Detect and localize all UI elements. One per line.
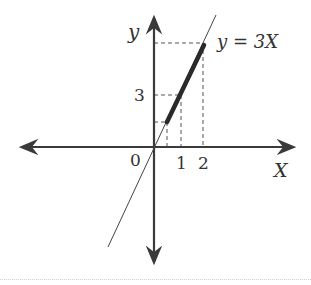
x-axis-label: X — [274, 161, 288, 180]
tick-label-x1: 1 — [176, 155, 187, 172]
equation-label: y = 3X — [217, 33, 278, 51]
y-axis-label: y — [128, 22, 139, 42]
tick-label-x2: 2 — [198, 155, 209, 172]
divider — [0, 279, 311, 280]
tick-label-y3: 3 — [134, 87, 145, 104]
highlighted-segment — [167, 45, 204, 122]
origin-label: 0 — [130, 152, 141, 169]
